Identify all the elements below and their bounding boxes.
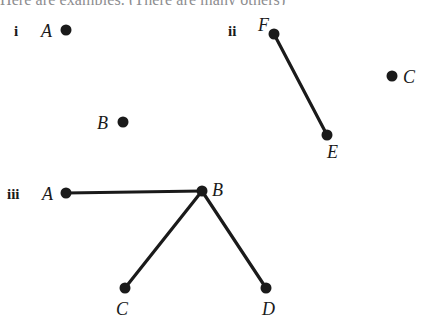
graph-edge: [202, 191, 266, 288]
edges-layer: [66, 34, 327, 288]
graph-vertex-dot: [269, 29, 280, 40]
graph-vertex-dot: [118, 117, 129, 128]
vertex-label: C: [116, 300, 128, 318]
graph-edge: [66, 191, 202, 193]
vertex-label: B: [212, 181, 223, 199]
vertex-label: A: [41, 22, 52, 40]
group-numeral-i: i: [14, 24, 18, 39]
graph-vertex-dot: [197, 186, 208, 197]
vertex-label: E: [327, 143, 338, 161]
group-numeral-ii: ii: [228, 24, 236, 39]
graph-vertex-dot: [61, 25, 72, 36]
vertices-layer: [61, 25, 398, 294]
vertex-label: B: [97, 114, 108, 132]
vertex-label: D: [262, 300, 275, 318]
vertex-label: C: [403, 68, 415, 86]
group-numeral-iii: iii: [7, 187, 20, 202]
vertex-label: A: [42, 185, 53, 203]
graph-vertex-dot: [261, 283, 272, 294]
graph-edge: [274, 34, 327, 135]
graph-vertex-dot: [387, 71, 398, 82]
graph-edge: [125, 191, 202, 288]
graph-drawing-canvas: [0, 0, 427, 336]
graph-examples-figure: Here are examples. (There are many other…: [0, 0, 427, 336]
graph-vertex-dot: [61, 188, 72, 199]
graph-vertex-dot: [120, 283, 131, 294]
graph-vertex-dot: [322, 130, 333, 141]
vertex-label: F: [258, 16, 269, 34]
